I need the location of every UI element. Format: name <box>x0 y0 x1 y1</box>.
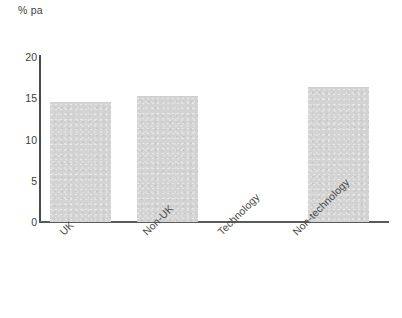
x-axis-label: Non-technology <box>290 176 351 237</box>
x-axis-label: Non-UK <box>140 202 175 237</box>
bar-chart: % pa 05101520 UKNon-UKTechnologyNon-tech… <box>0 0 402 318</box>
x-axis-label: UK <box>57 219 76 238</box>
plot-area: 05101520 UKNon-UKTechnologyNon-technolog… <box>0 0 402 318</box>
x-axis-labels: UKNon-UKTechnologyNon-technology <box>0 0 402 318</box>
x-axis-label: Technology <box>215 191 262 238</box>
